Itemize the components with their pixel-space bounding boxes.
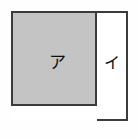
figure-canvas: ア イ [0,0,138,138]
region-unshaded-strip [11,106,97,121]
region-label-a: ア [49,54,66,71]
region-label-i: イ [104,55,120,71]
